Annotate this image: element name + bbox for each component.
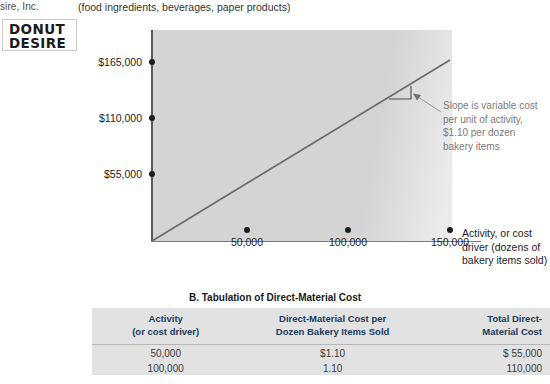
column-header-total-line1: Total Direct- bbox=[426, 313, 542, 326]
table-title: B. Tabulation of Direct-Material Cost bbox=[0, 292, 550, 303]
column-header-rate-line2: Dozen Bakery Items Sold bbox=[239, 326, 425, 339]
column-header-activity-line1: Activity bbox=[92, 313, 239, 326]
column-header-activity-line2: (or cost driver) bbox=[92, 326, 239, 339]
table-row: 50,000 $1.10 $ 55,000 bbox=[92, 345, 550, 361]
cost-behavior-chart: $165,000 $110,000 $55,000 50,000 100,000… bbox=[0, 12, 550, 292]
slope-triangle bbox=[389, 86, 411, 99]
cell-activity: 100,000 bbox=[92, 360, 239, 375]
slope-annotation-text: Slope is variable cost per unit of activ… bbox=[443, 99, 547, 153]
x-axis-title: Activity, or cost driver (dozens of bake… bbox=[462, 227, 548, 268]
annotation-arrowhead bbox=[413, 94, 421, 101]
cell-activity: 50,000 bbox=[92, 345, 239, 361]
table-row: 100,000 1.10 110,000 bbox=[92, 360, 550, 375]
company-running-head: sire, Inc. bbox=[0, 1, 39, 12]
column-header-rate: Direct-Material Cost per Dozen Bakery It… bbox=[239, 308, 425, 345]
cell-total: 110,000 bbox=[426, 360, 550, 375]
cell-total: $ 55,000 bbox=[426, 345, 550, 361]
cell-rate: $1.10 bbox=[239, 345, 425, 361]
direct-material-cost-table: Activity (or cost driver) Direct-Materia… bbox=[92, 308, 550, 375]
column-header-rate-line1: Direct-Material Cost per bbox=[239, 313, 425, 326]
cell-rate: 1.10 bbox=[239, 360, 425, 375]
column-header-total: Total Direct- Material Cost bbox=[426, 308, 550, 345]
tabulation-section: B. Tabulation of Direct-Material Cost Ac… bbox=[0, 292, 550, 384]
column-header-activity: Activity (or cost driver) bbox=[92, 308, 239, 345]
table-header-row: Activity (or cost driver) Direct-Materia… bbox=[92, 308, 550, 345]
cost-line bbox=[152, 60, 450, 241]
column-header-total-line2: Material Cost bbox=[426, 326, 542, 339]
